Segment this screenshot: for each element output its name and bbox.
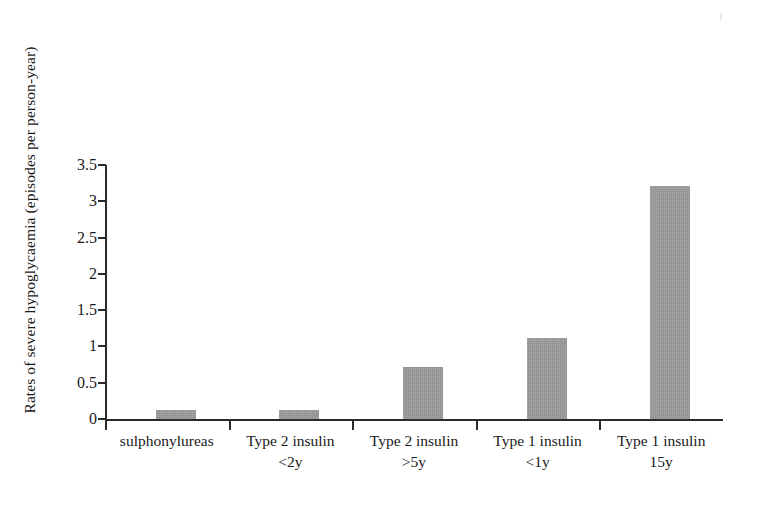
y-axis-tick-label: 1.5 xyxy=(77,301,97,319)
x-axis-tick xyxy=(599,421,601,430)
x-axis-category-label: Type 1 insulin<1y xyxy=(476,430,600,472)
bar xyxy=(156,410,196,419)
x-axis-category-label: sulphonylureas xyxy=(105,430,229,451)
scan-artifact xyxy=(720,13,722,20)
bar-series xyxy=(105,160,723,420)
category-label-line2: <2y xyxy=(229,451,353,472)
y-axis-tick-label: 0 xyxy=(89,410,97,428)
x-axis-category-label: Type 2 insulin>5y xyxy=(352,430,476,472)
x-axis-tick xyxy=(352,421,354,430)
y-axis-tick-label: 2 xyxy=(89,265,97,283)
y-axis-tick-labels: 00.511.522.533.5 xyxy=(53,160,97,420)
chart-figure: Rates of severe hypoglycaemia (episodes … xyxy=(0,0,761,505)
category-label-line1: Type 1 insulin xyxy=(493,432,581,449)
bar xyxy=(527,338,567,419)
y-axis-tick-label: 3.5 xyxy=(77,156,97,174)
category-label-line2: 15y xyxy=(599,451,723,472)
y-axis-tick-label: 1 xyxy=(89,337,97,355)
category-label-line2: <1y xyxy=(476,451,600,472)
y-axis-tick-label: 0.5 xyxy=(77,374,97,392)
y-axis-tick-label: 3 xyxy=(89,192,97,210)
x-axis-category-label: Type 2 insulin<2y xyxy=(229,430,353,472)
category-label-line1: Type 1 insulin xyxy=(617,432,705,449)
bar xyxy=(650,186,690,419)
bar xyxy=(279,410,319,419)
y-axis-title: Rates of severe hypoglycaemia (episodes … xyxy=(21,46,39,413)
category-label-line1: Type 2 insulin xyxy=(370,432,458,449)
plot-area: 00.511.522.533.5 xyxy=(105,160,723,420)
x-axis-category-labels: sulphonylureasType 2 insulin<2yType 2 in… xyxy=(105,430,723,490)
x-axis-category-label: Type 1 insulin15y xyxy=(599,430,723,472)
category-label-line2: >5y xyxy=(352,451,476,472)
x-axis-tick xyxy=(229,421,231,430)
x-axis-tick xyxy=(476,421,478,430)
bar xyxy=(403,367,443,419)
y-axis-title-container: Rates of severe hypoglycaemia (episodes … xyxy=(0,0,60,460)
category-label-line1: Type 2 insulin xyxy=(246,432,334,449)
x-axis-tick xyxy=(105,421,107,430)
category-label-line1: sulphonylureas xyxy=(120,432,214,449)
y-axis-tick-label: 2.5 xyxy=(77,229,97,247)
